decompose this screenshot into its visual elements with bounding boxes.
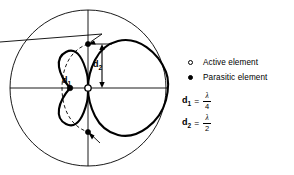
d2-arrowhead-down — [99, 82, 104, 88]
top-parasitic-leader-line — [0, 34, 102, 42]
d1-sub: 1 — [68, 80, 72, 87]
legend-label-active-element: Active element — [197, 58, 258, 68]
formula-d1-equals: = — [191, 96, 203, 106]
formula-d1-fraction: λ 4 — [203, 92, 211, 110]
parasitic-element-bottom-marker — [85, 129, 90, 134]
legend-label-parasitic-element: Parasitic element — [197, 73, 268, 83]
formula-d2-numerator: λ — [204, 114, 209, 123]
formula-d1-numerator: λ — [204, 92, 209, 101]
formula-list: d1 = λ 4 d2 = λ 2 — [182, 90, 292, 134]
legend-item-active-element: Active element — [183, 56, 291, 69]
polar-pattern-plot — [0, 0, 294, 175]
formula-d1-denominator: 4 — [204, 102, 210, 111]
active-element-marker — [85, 85, 91, 91]
formula-d2-denominator: 2 — [204, 124, 210, 133]
d2-sub: 2 — [99, 64, 103, 71]
formula-d2-fraction: λ 2 — [203, 114, 211, 132]
d1-dimension-label: d1 — [62, 76, 71, 87]
d2-dimension-label: d2 — [93, 60, 102, 71]
legend: Active element Parasitic element — [183, 56, 291, 86]
formula-d2: d2 = λ 2 — [182, 112, 292, 134]
formula-d2-equals: = — [191, 118, 203, 128]
formula-d1: d1 = λ 4 — [182, 90, 292, 112]
formula-d1-variable: d1 — [182, 95, 191, 107]
filled-circle-icon — [183, 75, 197, 80]
formula-d2-variable: d2 — [182, 117, 191, 129]
parasitic-element-top-marker — [85, 41, 90, 46]
open-circle-icon — [183, 60, 197, 65]
radiation-pattern-figure: d1 d2 Active element Parasitic element d… — [0, 0, 294, 175]
legend-item-parasitic-element: Parasitic element — [183, 71, 291, 84]
